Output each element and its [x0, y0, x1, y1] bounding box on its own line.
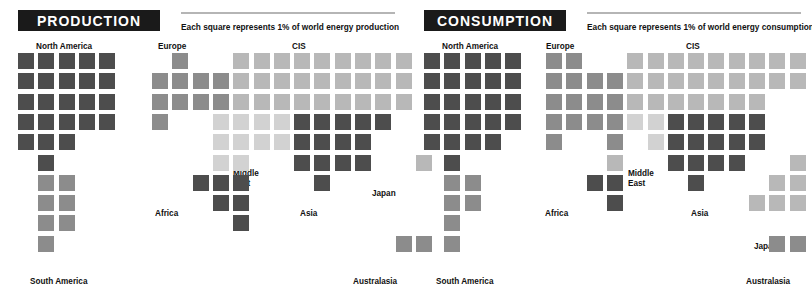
- production-label-africa: Africa: [155, 209, 178, 219]
- production-world-square: [152, 73, 168, 89]
- production-world-square: [254, 94, 270, 110]
- production-label-north-america: North America: [36, 42, 92, 52]
- consumption-world-square: [607, 73, 623, 89]
- consumption-world-square: [587, 73, 603, 89]
- consumption-americas-square: [465, 134, 481, 150]
- consumption-world-square: [729, 94, 745, 110]
- production-americas-square: [38, 114, 54, 130]
- production-americas-square: [59, 114, 75, 130]
- production-americas-square: [38, 94, 54, 110]
- consumption-americas-square: [444, 215, 460, 231]
- production-world-square: [355, 53, 371, 69]
- production-world-square: [335, 73, 351, 89]
- consumption-americas-square: [424, 73, 440, 89]
- production-americas-square: [59, 215, 75, 231]
- production-world-square: [294, 73, 310, 89]
- consumption-world-square: [546, 94, 562, 110]
- consumption-americas-square: [485, 134, 501, 150]
- production-world-square: [254, 134, 270, 150]
- production-world-square: [172, 73, 188, 89]
- production-world-square: [355, 114, 371, 130]
- production-americas-square: [38, 236, 54, 252]
- consumption-americas-square: [444, 134, 460, 150]
- consumption-world-square: [790, 175, 806, 191]
- production-world-square: [274, 114, 290, 130]
- production-world-square: [233, 134, 249, 150]
- consumption-world-square: [790, 195, 806, 211]
- production-americas-square: [18, 73, 34, 89]
- production-world-square: [213, 114, 229, 130]
- production-americas-square: [99, 53, 115, 69]
- production-label-south-america: South America: [30, 277, 87, 287]
- production-world-square: [213, 175, 229, 191]
- production-americas-square: [59, 134, 75, 150]
- consumption-world-square: [729, 73, 745, 89]
- consumption-label-middle-east-line2: East: [628, 179, 645, 188]
- consumption-world-square: [566, 94, 582, 110]
- consumption-world-square: [708, 134, 724, 150]
- consumption-world-square: [607, 175, 623, 191]
- production-world-square: [254, 73, 270, 89]
- production-world-square: [355, 134, 371, 150]
- consumption-world-square: [708, 155, 724, 171]
- production-world-square: [233, 53, 249, 69]
- production-americas-square: [18, 134, 34, 150]
- production-world-square: [294, 134, 310, 150]
- consumption-americas-square: [424, 53, 440, 69]
- production-americas-square: [38, 155, 54, 171]
- production-world-square: [335, 94, 351, 110]
- production-world-square: [294, 155, 310, 171]
- production-world-square: [375, 73, 391, 89]
- consumption-world-square: [688, 134, 704, 150]
- consumption-americas-square: [424, 134, 440, 150]
- production-world-square: [213, 155, 229, 171]
- production-label-cis: CIS: [292, 42, 306, 52]
- consumption-americas-square: [485, 114, 501, 130]
- production-world-square: [274, 73, 290, 89]
- consumption-world-square: [790, 53, 806, 69]
- consumption-world-square: [769, 175, 785, 191]
- production-world-square: [335, 114, 351, 130]
- production-world-square: [314, 175, 330, 191]
- production-world-square: [254, 53, 270, 69]
- consumption-world-square: [587, 94, 603, 110]
- consumption-world-square: [627, 94, 643, 110]
- consumption-world-square: [688, 94, 704, 110]
- consumption-world-square: [749, 134, 765, 150]
- consumption-americas-square: [444, 53, 460, 69]
- consumption-americas-square: [465, 73, 481, 89]
- consumption-world-square: [648, 53, 664, 69]
- consumption-world-square: [587, 175, 603, 191]
- production-panel: PRODUCTION Each square represents 1% of …: [0, 0, 406, 296]
- consumption-world-square: [648, 114, 664, 130]
- production-world-square: [172, 94, 188, 110]
- consumption-label-australasia: Australasia: [746, 277, 790, 287]
- production-world-square: [375, 53, 391, 69]
- production-americas-square: [38, 73, 54, 89]
- consumption-world-square: [769, 236, 785, 252]
- consumption-world-square: [749, 53, 765, 69]
- energy-infographic: PRODUCTION Each square represents 1% of …: [0, 0, 812, 296]
- consumption-world-square: [688, 73, 704, 89]
- consumption-world-square: [587, 114, 603, 130]
- production-world-square: [213, 73, 229, 89]
- consumption-world-square: [749, 195, 765, 211]
- production-americas-square: [99, 114, 115, 130]
- consumption-americas-square: [485, 94, 501, 110]
- consumption-world-square: [648, 73, 664, 89]
- consumption-label-cis: CIS: [686, 42, 700, 52]
- consumption-label-middle-east-line1: Middle: [628, 169, 654, 178]
- consumption-world-square: [546, 134, 562, 150]
- consumption-americas-square: [465, 195, 481, 211]
- consumption-americas-square: [465, 175, 481, 191]
- consumption-label-africa: Africa: [545, 209, 568, 219]
- consumption-legend-rule: [587, 12, 801, 14]
- production-label-japan: Japan: [372, 189, 396, 199]
- consumption-label-asia: Asia: [691, 209, 708, 219]
- consumption-americas-square: [424, 94, 440, 110]
- consumption-americas-square: [444, 73, 460, 89]
- production-world-square: [355, 73, 371, 89]
- production-world-square: [375, 114, 391, 130]
- consumption-world-square: [566, 73, 582, 89]
- consumption-americas-square: [424, 114, 440, 130]
